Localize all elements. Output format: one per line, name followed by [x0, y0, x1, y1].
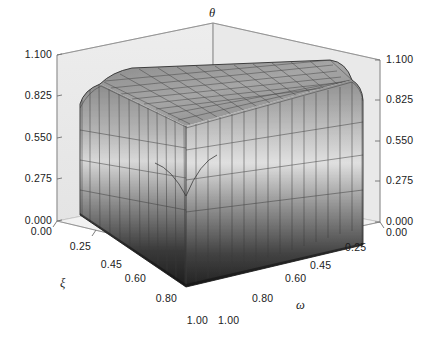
vertical-tick-right-0825: 0.825 — [386, 93, 413, 105]
surface-body — [80, 60, 363, 287]
xi-tick-080: 0.80 — [156, 292, 177, 304]
theta-axis-label: θ — [209, 6, 215, 21]
xi-tick-025: 0.25 — [70, 240, 91, 252]
omega-tick-000: 0.00 — [386, 226, 407, 238]
xi-tick-060: 0.60 — [125, 272, 146, 284]
vertical-tick-left-1100: 1.100 — [25, 48, 52, 60]
omega-axis-label: ω — [296, 298, 305, 313]
omega-tick-100: 1.00 — [218, 314, 239, 326]
vertical-tick-right-1100: 1.100 — [386, 53, 413, 65]
surface-plot-figure: θ 1.100 0.825 0.550 0.275 0.000 1.100 0.… — [0, 0, 427, 355]
xi-tick-100: 1.00 — [187, 314, 208, 326]
vertical-tick-left-0275: 0.275 — [25, 172, 52, 184]
vertical-tick-left-0550: 0.550 — [25, 131, 52, 143]
surface-plot-canvas — [0, 0, 427, 355]
xi-tick-000: 0.00 — [31, 225, 52, 237]
omega-tick-025: 0.25 — [345, 241, 366, 253]
omega-tick-080: 0.80 — [252, 292, 273, 304]
vertical-tick-right-0550: 0.550 — [386, 134, 413, 146]
vertical-tick-right-0275: 0.275 — [386, 174, 413, 186]
omega-tick-045: 0.45 — [310, 259, 331, 271]
xi-tick-045: 0.45 — [101, 258, 122, 270]
omega-tick-060: 0.60 — [285, 272, 306, 284]
xi-axis-label: ξ — [60, 276, 65, 291]
vertical-tick-left-0825: 0.825 — [25, 89, 52, 101]
